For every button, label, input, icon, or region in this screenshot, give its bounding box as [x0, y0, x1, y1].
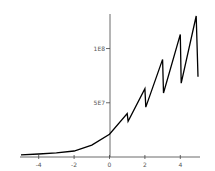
x-tick-label: 4	[178, 161, 182, 168]
x-tick-label: 2	[143, 161, 147, 168]
line-chart: -4-2024 5E71E8	[0, 0, 215, 171]
data-line	[21, 16, 198, 155]
y-tick-label: 1E8	[94, 45, 106, 52]
y-tick-label: 5E7	[94, 99, 106, 106]
x-tick-label: -4	[36, 161, 42, 168]
x-tick-label: 0	[108, 161, 112, 168]
x-tick-label: -2	[71, 161, 77, 168]
